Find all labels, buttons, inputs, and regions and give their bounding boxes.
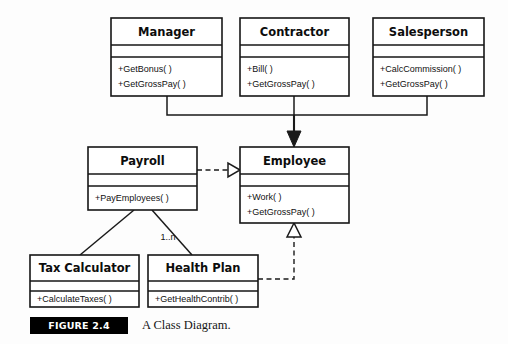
- class-diagram-canvas: 1..n Manager +GetBonus( ) +GetGrossPay( …: [0, 0, 508, 344]
- tax-calculator-method-0: +CalculateTaxes( ): [37, 294, 112, 304]
- salesperson-title: Salesperson: [389, 25, 468, 39]
- manager-title: Manager: [138, 25, 195, 39]
- tax-calculator-title: Tax Calculator: [39, 261, 131, 275]
- class-box-payroll[interactable]: Payroll +PayEmployees( ): [88, 147, 197, 210]
- salesperson-method-0: +CalcCommission( ): [380, 64, 461, 74]
- payroll-method-0: +PayEmployees( ): [95, 193, 169, 203]
- salesperson-method-1: +GetGrossPay( ): [380, 79, 448, 89]
- class-box-tax-calculator[interactable]: Tax Calculator +CalculateTaxes( ): [30, 255, 139, 307]
- employee-method-0: +Work( ): [247, 192, 282, 202]
- realization-healthplan-employee: [258, 223, 301, 279]
- dependency-arrowhead-icon: [228, 163, 240, 177]
- aggregation-line-tax-calculator: [80, 210, 134, 255]
- class-box-manager[interactable]: Manager +GetBonus( ) +GetGrossPay( ): [111, 18, 222, 96]
- payroll-title: Payroll: [120, 154, 164, 168]
- generalization-bus-line: [167, 96, 427, 115]
- contractor-method-0: +Bill( ): [247, 64, 273, 74]
- multiplicity-label: 1..n: [160, 232, 175, 242]
- employee-title: Employee: [263, 154, 326, 168]
- contractor-method-1: +GetGrossPay( ): [247, 79, 315, 89]
- employee-method-1: +GetGrossPay( ): [247, 207, 315, 217]
- figure-caption: FIGURE 2.4 A Class Diagram.: [30, 317, 231, 334]
- dependency-payroll-employee: [197, 163, 240, 177]
- figure-number-tag: FIGURE 2.4: [30, 317, 128, 334]
- class-box-employee[interactable]: Employee +Work( ) +GetGrossPay( ): [240, 147, 349, 223]
- manager-method-0: +GetBonus( ): [118, 64, 172, 74]
- figure-page: 1..n Manager +GetBonus( ) +GetGrossPay( …: [0, 0, 508, 344]
- health-plan-title: Health Plan: [165, 261, 240, 275]
- generalization-employee-connector: [167, 96, 427, 147]
- realization-arrowhead-icon: [287, 223, 301, 237]
- class-box-salesperson[interactable]: Salesperson +CalcCommission( ) +GetGross…: [373, 18, 484, 96]
- class-box-contractor[interactable]: Contractor +Bill( ) +GetGrossPay( ): [240, 18, 349, 96]
- realization-line-healthplan: [258, 235, 294, 279]
- figure-caption-text: A Class Diagram.: [142, 318, 231, 333]
- generalization-arrowhead-icon: [287, 131, 301, 147]
- manager-method-1: +GetGrossPay( ): [118, 79, 186, 89]
- health-plan-method-0: +GetHealthContrib( ): [155, 294, 238, 304]
- contractor-title: Contractor: [260, 25, 330, 39]
- class-box-health-plan[interactable]: Health Plan +GetHealthContrib( ): [148, 255, 258, 307]
- aggregation-payroll-parts: 1..n: [80, 210, 192, 255]
